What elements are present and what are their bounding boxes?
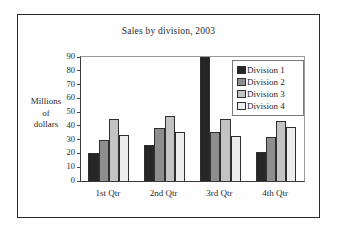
bar [175, 132, 185, 181]
bar [286, 127, 296, 181]
bar [266, 137, 276, 181]
y-axis-tick-label: 90 [67, 51, 76, 61]
y-axis-tick-label: 10 [67, 161, 76, 171]
chart-figure: Sales by division, 2003 Millions of doll… [0, 0, 337, 233]
bar [154, 128, 164, 181]
legend-swatch-icon [237, 66, 246, 74]
x-axis-tick-label: 3rd Qtr [192, 188, 248, 198]
legend-label: Division 2 [247, 77, 285, 87]
bar [210, 132, 220, 181]
y-axis-tick-label: 20 [67, 147, 76, 157]
bar [276, 121, 286, 181]
y-axis-tick-mark [77, 112, 81, 113]
legend-swatch-icon [237, 90, 246, 98]
y-axis-tick-mark [77, 57, 81, 58]
y-axis-tick-label: 30 [67, 134, 76, 144]
bar [165, 116, 175, 181]
legend-swatch-icon [237, 78, 246, 86]
y-axis-tick-label: 60 [67, 92, 76, 102]
bar [119, 135, 129, 181]
bar [256, 152, 266, 181]
y-axis-tick-label: 70 [67, 79, 76, 89]
bar [99, 140, 109, 181]
bar [200, 57, 210, 181]
legend-item: Division 4 [237, 100, 300, 112]
x-axis-tick-label: 4th Qtr [247, 188, 303, 198]
y-axis-title-line-3: dollars [20, 119, 72, 131]
y-axis-tick-mark [77, 125, 81, 126]
bar [144, 145, 154, 182]
bar [109, 119, 119, 181]
bar [231, 136, 241, 181]
y-axis-tick-mark [77, 181, 81, 182]
y-axis-tick-label: 80 [67, 65, 76, 75]
bar [88, 153, 98, 181]
y-axis-tick-mark [77, 167, 81, 168]
y-axis-title-line-1: Millions [20, 96, 72, 108]
legend-item: Division 2 [237, 76, 300, 88]
legend-label: Division 3 [247, 89, 285, 99]
y-axis-tick-mark [77, 70, 81, 71]
y-axis-tick-label: 40 [67, 120, 76, 130]
chart-legend: Division 1Division 2Division 3Division 4 [232, 60, 304, 116]
y-axis-title-line-2: of [20, 108, 72, 120]
legend-label: Division 4 [247, 101, 285, 111]
y-axis-tick-mark [77, 153, 81, 154]
legend-label: Division 1 [247, 65, 285, 75]
y-axis-tick-mark [77, 84, 81, 85]
legend-item: Division 3 [237, 88, 300, 100]
y-axis-tick-mark [77, 98, 81, 99]
bar-group [144, 57, 185, 181]
bar [220, 119, 230, 181]
y-axis-title: Millions of dollars [20, 96, 72, 131]
x-axis-tick-label: 1st Qtr [80, 188, 136, 198]
x-axis-tick-label: 2nd Qtr [136, 188, 192, 198]
legend-item: Division 1 [237, 64, 300, 76]
y-axis-tick-mark [77, 139, 81, 140]
legend-swatch-icon [237, 102, 246, 110]
chart-title: Sales by division, 2003 [17, 26, 320, 36]
y-axis-tick-label: 0 [71, 175, 75, 185]
y-axis-tick-label: 50 [67, 106, 76, 116]
bar-group [88, 57, 129, 181]
